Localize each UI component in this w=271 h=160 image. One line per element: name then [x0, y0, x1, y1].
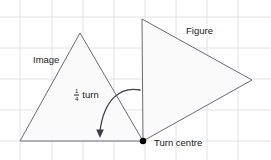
- geometry-diagram: [0, 0, 271, 160]
- turn-centre-dot: [140, 138, 146, 144]
- figure-triangle: [142, 19, 252, 141]
- quarter-turn-label: 1 4 turn: [74, 87, 99, 102]
- figure-label: Figure: [186, 26, 213, 36]
- image-label: Image: [33, 55, 59, 65]
- diagram-canvas: Image Figure Turn centre 1 4 turn: [0, 0, 271, 160]
- fraction-numerator: 1: [74, 88, 79, 94]
- fraction-denominator: 4: [74, 96, 79, 102]
- turn-centre-label: Turn centre: [154, 138, 202, 148]
- turn-word: turn: [82, 90, 98, 100]
- fraction-one-quarter: 1 4: [74, 88, 79, 103]
